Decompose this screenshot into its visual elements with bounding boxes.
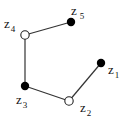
node-z2-open — [65, 97, 73, 105]
label-z4: z4 — [4, 16, 16, 34]
edge-z2-z3 — [25, 86, 69, 101]
node-z4-open — [21, 31, 29, 39]
node-z3-filled — [21, 82, 29, 90]
edge-z4-z5 — [25, 22, 71, 35]
label-z3: z3 — [16, 92, 28, 110]
label-z1: z1 — [108, 62, 119, 80]
diagram-canvas: z1 z2 z3 z4 z5 — [0, 0, 123, 122]
edge-z1-z2 — [69, 63, 101, 101]
label-z2: z2 — [80, 100, 91, 118]
graph-svg: z1 z2 z3 z4 z5 — [0, 0, 123, 122]
node-z5-filled — [67, 18, 75, 26]
node-z1-filled — [97, 59, 105, 67]
label-z5: z5 — [71, 3, 85, 21]
